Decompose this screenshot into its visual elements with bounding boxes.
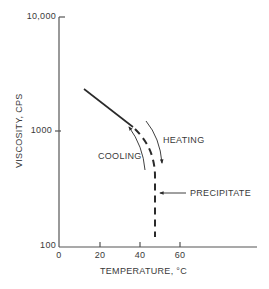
cooling-label: COOLING <box>98 151 142 161</box>
x-tick-label-40: 40 <box>128 250 152 260</box>
cooling-arrow-arc <box>129 127 145 170</box>
y-tick-label-1000: 1000 <box>2 125 52 135</box>
viscosity-dashed-curve <box>135 129 155 237</box>
heating-label: HEATING <box>163 135 204 145</box>
y-tick-label-100: 100 <box>6 240 56 250</box>
x-axis-title: TEMPERATURE, °C <box>100 266 187 276</box>
x-tick-label-20: 20 <box>88 250 112 260</box>
heating-arrow-arc <box>146 121 162 163</box>
x-tick-label-60: 60 <box>168 250 192 260</box>
x-tick-label-0: 0 <box>47 250 71 260</box>
y-tick-label-10000: 10,000 <box>6 11 56 21</box>
viscosity-solid-line <box>84 89 133 127</box>
precipitate-label: PRECIPITATE <box>190 188 251 198</box>
y-axis-title: VISCOSITY, CPS <box>14 93 24 168</box>
